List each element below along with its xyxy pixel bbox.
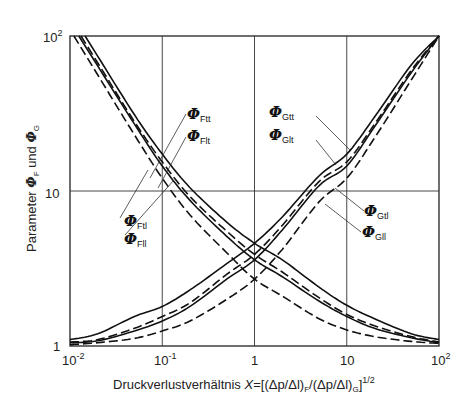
x-tick-0.01: 10-2 bbox=[62, 351, 84, 368]
label-phi-glt: ΦGlt bbox=[269, 126, 294, 145]
curve-phi-flt bbox=[81, 36, 439, 342]
x-tick-100: 102 bbox=[431, 351, 450, 368]
x-tick-1: 1 bbox=[251, 353, 258, 368]
y-axis-title: Parameter ΦF und ΦG bbox=[24, 125, 41, 252]
y-tick-labels: 1 10 102 bbox=[43, 28, 62, 354]
x-axis-title: Druckverlustverhältnis X=[(Δp/Δl)F/(Δp/Δ… bbox=[113, 375, 375, 394]
label-phi-ftt: ΦFtt bbox=[187, 105, 211, 124]
label-phi-fll: ΦFll bbox=[124, 230, 147, 249]
leader-Glt bbox=[316, 140, 336, 165]
leader-Gll bbox=[325, 204, 361, 232]
label-phi-gll: ΦGll bbox=[362, 223, 386, 242]
label-phi-flt: ΦFlt bbox=[187, 127, 211, 146]
curve-phi-fll bbox=[74, 36, 439, 343]
y-tick-10: 10 bbox=[45, 186, 59, 201]
y-tick-100: 102 bbox=[43, 28, 62, 45]
lockhart-martinelli-chart: ΦFtt ΦFlt ΦFtl ΦFll ΦGtt ΦGlt ΦGtl ΦGll … bbox=[0, 0, 475, 405]
leader-Gtt bbox=[316, 116, 350, 150]
leader-Ftl bbox=[120, 170, 148, 218]
curve-phi-ftl bbox=[79, 36, 439, 343]
label-phi-gtl: ΦGtl bbox=[364, 202, 389, 221]
x-tick-10: 10 bbox=[340, 353, 354, 368]
curve-phi-ftt bbox=[85, 36, 439, 340]
label-phi-ftl: ΦFtl bbox=[124, 212, 147, 231]
y-tick-1: 1 bbox=[53, 339, 60, 354]
x-tick-labels: 10-2 10-1 1 10 102 bbox=[62, 351, 450, 368]
label-phi-gtt: ΦGtt bbox=[269, 103, 295, 122]
x-tick-0.1: 10-1 bbox=[154, 351, 176, 368]
grid bbox=[70, 36, 439, 346]
